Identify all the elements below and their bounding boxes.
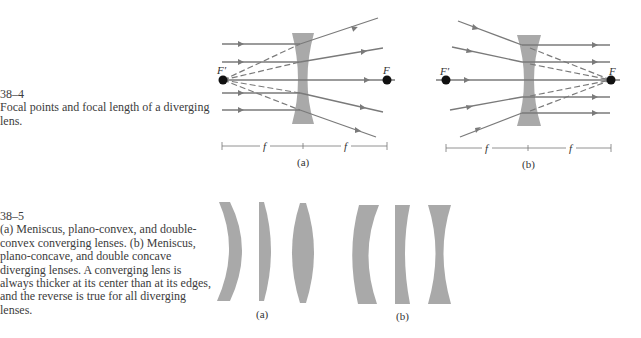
focal-label-left: F′ — [439, 65, 450, 77]
focal-label-right: F — [608, 65, 616, 77]
arrowhead — [238, 107, 244, 113]
virtual-ray — [223, 80, 300, 110]
arrowhead — [238, 90, 244, 96]
arrowhead — [238, 41, 244, 47]
arrowhead — [475, 127, 481, 133]
arrowhead — [592, 110, 598, 116]
virtual-ray — [223, 62, 300, 80]
arrowhead — [592, 42, 598, 48]
distance-label: f — [344, 140, 349, 152]
focal-label-right: F — [382, 64, 390, 76]
panel-label: (a) — [297, 156, 310, 169]
distance-label: f — [263, 140, 268, 152]
plano-convex-lens — [259, 202, 271, 301]
group-label: (a) — [256, 308, 269, 321]
virtual-ray — [530, 80, 611, 96]
arrowhead — [360, 104, 366, 110]
panel-label: (b) — [522, 158, 535, 171]
arrowhead — [464, 77, 470, 83]
arrowhead — [238, 59, 244, 65]
focal-label-left: F′ — [216, 64, 227, 76]
ray — [452, 47, 522, 62]
lens-shapes — [217, 202, 451, 304]
double-concave-lens — [428, 205, 451, 304]
arrowhead — [592, 59, 598, 65]
arrowhead — [472, 24, 479, 30]
panel-b-diverging-converging-in: F′ F f f (b) — [436, 21, 620, 171]
virtual-ray — [223, 80, 300, 93]
distance-label: f — [485, 142, 490, 154]
double-convex-lens — [292, 203, 314, 303]
plano-concave-lens — [395, 205, 410, 304]
arrowhead — [355, 127, 361, 133]
ray — [300, 93, 383, 112]
figures-canvas: F′ F f f (a) — [0, 0, 641, 338]
arrowhead — [592, 94, 598, 100]
meniscus-converging-lens — [217, 202, 242, 301]
ray — [458, 21, 522, 45]
virtual-ray — [530, 64, 611, 80]
panel-a-diverging-parallel-in: F′ F f f (a) — [216, 18, 395, 169]
focal-point-left — [219, 76, 228, 85]
virtual-ray — [530, 48, 611, 80]
focal-point-right — [383, 76, 392, 85]
distance-label: f — [569, 142, 574, 154]
arrowhead — [361, 49, 367, 55]
ray — [300, 18, 378, 44]
arrowhead — [364, 77, 370, 83]
meniscus-diverging-lens — [352, 205, 379, 304]
virtual-ray — [530, 80, 611, 111]
group-label: (b) — [396, 310, 409, 323]
ray — [460, 113, 522, 137]
ray — [450, 97, 522, 110]
ray — [300, 48, 383, 62]
arrowhead — [466, 48, 473, 53]
